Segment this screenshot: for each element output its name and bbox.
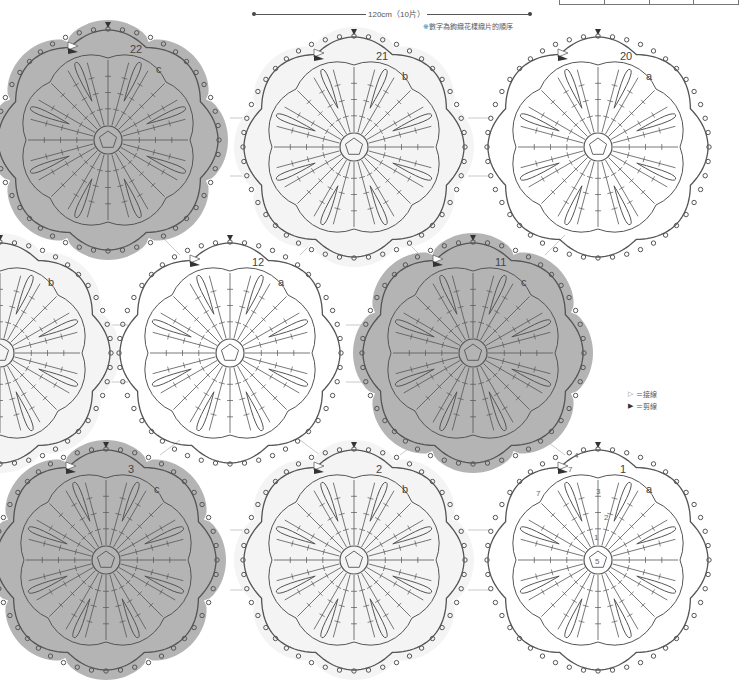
- motif-22-c: 22c: [0, 20, 228, 260]
- loop-stitch: [520, 527, 559, 544]
- picot-icon: [1, 515, 5, 519]
- picot-icon: [394, 660, 398, 664]
- picot-icon: [338, 365, 342, 369]
- stitch-tick: [569, 573, 572, 578]
- picot-icon: [309, 455, 313, 459]
- loop-stitch: [637, 527, 676, 544]
- loop-stitch: [197, 392, 214, 431]
- picot-icon: [394, 455, 398, 459]
- stitch-tick: [259, 407, 264, 410]
- picot-icon: [121, 322, 125, 326]
- stitch-tick: [638, 121, 641, 126]
- color-code-label: b: [48, 276, 54, 288]
- picot-icon: [581, 668, 585, 672]
- color-code-label: b: [402, 483, 408, 495]
- picot-icon: [540, 49, 544, 53]
- loop-stitch: [269, 369, 308, 386]
- center-pentagon: [589, 138, 606, 154]
- picot-icon: [553, 660, 557, 664]
- filled-triangle-icon: [595, 442, 601, 448]
- picot-icon: [553, 455, 557, 459]
- picot-icon: [40, 453, 44, 457]
- stitch-tick: [611, 118, 616, 121]
- color-code-label: c: [154, 483, 160, 495]
- loop-stitch: [246, 392, 263, 431]
- picot-icon: [148, 35, 152, 39]
- picot-icon: [663, 470, 667, 474]
- motif-group: 22c21b20ab12a11c3c2b1a4773215: [0, 20, 711, 680]
- picot-icon: [40, 248, 44, 252]
- picot-icon: [698, 515, 702, 519]
- motif-number: 11: [495, 256, 506, 268]
- picot-icon: [148, 240, 152, 244]
- picot-icon: [684, 490, 688, 494]
- stitch-tick: [627, 614, 632, 617]
- picot-icon: [283, 447, 287, 451]
- loop-stitch: [565, 599, 582, 638]
- stitch-tick: [259, 296, 264, 299]
- filled-triangle-icon: [558, 468, 568, 474]
- picot-icon: [703, 174, 707, 178]
- center-ring: [584, 133, 612, 161]
- picot-icon: [160, 263, 164, 267]
- picot-icon: [283, 255, 287, 259]
- picot-icon: [651, 654, 655, 658]
- stitch-tick: [619, 104, 624, 107]
- picot-icon: [316, 283, 320, 287]
- picot-icon: [486, 543, 490, 547]
- picot-icon: [270, 453, 274, 457]
- picot-icon: [309, 247, 313, 251]
- stitch-tick: [201, 366, 204, 371]
- picot-icon: [213, 241, 217, 245]
- picot-icon: [692, 89, 696, 93]
- stitch-tick: [196, 407, 201, 410]
- stitch-tick: [555, 168, 558, 173]
- loop-stitch: [246, 275, 263, 314]
- round-number: 1: [594, 533, 599, 542]
- picot-icon: [316, 418, 320, 422]
- stitch-tick: [212, 379, 217, 382]
- motif-12-a: 12a: [117, 235, 343, 466]
- picot-icon: [553, 42, 557, 46]
- filled-triangle-icon: [558, 55, 568, 61]
- loop-stitch: [614, 69, 631, 108]
- filled-triangle-icon: [595, 29, 601, 35]
- picot-icon: [208, 95, 212, 99]
- picot-icon: [295, 263, 299, 267]
- stitch-tick: [627, 90, 632, 93]
- picot-icon: [199, 244, 203, 248]
- motif-number: 1: [620, 463, 626, 475]
- picot-icon: [172, 447, 176, 451]
- picot-icon: [567, 451, 571, 455]
- stitch-tick: [580, 173, 585, 176]
- picot-icon: [663, 646, 667, 650]
- picot-icon: [625, 38, 629, 42]
- picot-icon: [185, 248, 189, 252]
- picot-icon: [706, 543, 710, 547]
- picot-icon: [140, 418, 144, 422]
- picot-icon: [500, 200, 504, 204]
- motif-11-c: 11c: [353, 233, 593, 473]
- stitch-tick: [564, 503, 569, 506]
- loop-stitch: [614, 186, 631, 225]
- motif-fill: [234, 440, 474, 680]
- stitch-tick: [624, 573, 627, 578]
- picot-icon: [208, 180, 212, 184]
- stitch-tick: [652, 589, 655, 594]
- filled-triangle-icon: [227, 235, 233, 241]
- picot-icon: [567, 38, 571, 42]
- picot-icon: [638, 660, 642, 664]
- motif-fill: [234, 27, 474, 267]
- picot-icon: [249, 515, 253, 519]
- round-number: 3: [596, 487, 601, 496]
- picot-icon: [428, 453, 432, 457]
- picot-icon: [213, 461, 217, 465]
- picot-icon: [242, 461, 246, 465]
- picot-icon: [553, 247, 557, 251]
- picot-icon: [581, 35, 585, 39]
- picot-icon: [257, 458, 261, 462]
- stitch-tick: [611, 531, 616, 534]
- loop-stitch: [637, 114, 676, 131]
- picot-icon: [500, 502, 504, 506]
